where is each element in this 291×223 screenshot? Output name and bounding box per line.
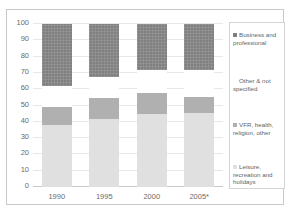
- bar-2005[interactable]: 2005*: [184, 24, 214, 187]
- chart-page: 01020304050607080901001990199520002005* …: [0, 0, 291, 223]
- chart-legend: Business and professionalOther & not spe…: [229, 22, 285, 189]
- y-axis-tick-label: 90: [21, 36, 29, 44]
- bar-segment-business[interactable]: [137, 24, 167, 70]
- y-axis-tick-label: 80: [21, 52, 29, 60]
- x-axis-tick-label: 1990: [35, 193, 79, 201]
- legend-swatch-icon: [233, 33, 237, 37]
- y-axis-tick-label: 0: [25, 182, 29, 190]
- y-axis-tick-label: 20: [21, 150, 29, 158]
- bar-segment-leisure[interactable]: [137, 114, 167, 187]
- y-axis-tick-label: 70: [21, 68, 29, 76]
- legend-swatch-icon: [233, 165, 237, 169]
- bar-segment-other[interactable]: [137, 70, 167, 94]
- legend-swatch-icon: [233, 123, 237, 127]
- legend-label: Business and professional: [233, 31, 276, 46]
- bar-segment-business[interactable]: [42, 24, 72, 86]
- y-axis-tick-label: 30: [21, 133, 29, 141]
- legend-swatch-icon: [233, 79, 237, 83]
- bar-segment-other[interactable]: [89, 77, 119, 98]
- bar-segment-other[interactable]: [184, 70, 214, 97]
- bar-1990[interactable]: 1990: [42, 24, 72, 187]
- bar-segment-business[interactable]: [89, 24, 119, 77]
- y-axis-tick-label: 40: [21, 117, 29, 125]
- bar-2000[interactable]: 2000: [137, 24, 167, 187]
- plot-area: 01020304050607080901001990199520002005*: [33, 24, 223, 187]
- y-axis-tick-label: 100: [16, 19, 29, 27]
- x-axis-tick-label: 2000: [130, 193, 174, 201]
- x-axis-tick-label: 1995: [82, 193, 126, 201]
- bar-segment-leisure[interactable]: [184, 113, 214, 187]
- bar-segment-leisure[interactable]: [89, 119, 119, 187]
- legend-label: Leisure, recreation and holidays: [233, 163, 273, 185]
- y-axis-tick-label: 10: [21, 166, 29, 174]
- legend-label: VFR, health, religion, other: [233, 121, 273, 136]
- chart-frame: 01020304050607080901001990199520002005* …: [6, 9, 284, 205]
- legend-item[interactable]: Business and professional: [233, 31, 285, 46]
- legend-label: Other & not specified: [233, 77, 271, 92]
- top-caption-strip: [0, 0, 291, 8]
- bar-segment-leisure[interactable]: [42, 125, 72, 187]
- y-axis-tick-label: 60: [21, 84, 29, 92]
- bar-segment-business[interactable]: [184, 24, 214, 70]
- legend-item[interactable]: Leisure, recreation and holidays: [233, 163, 285, 186]
- legend-item[interactable]: Other & not specified: [233, 77, 285, 92]
- bar-segment-vfr[interactable]: [184, 97, 214, 113]
- bar-segment-vfr[interactable]: [42, 107, 72, 125]
- bar-segment-other[interactable]: [42, 86, 72, 107]
- y-axis-tick-label: 50: [21, 101, 29, 109]
- bar-segment-vfr[interactable]: [89, 98, 119, 119]
- legend-item[interactable]: VFR, health, religion, other: [233, 121, 285, 136]
- x-axis-tick-label: 2005*: [177, 193, 221, 201]
- bar-1995[interactable]: 1995: [89, 24, 119, 187]
- bar-segment-vfr[interactable]: [137, 93, 167, 114]
